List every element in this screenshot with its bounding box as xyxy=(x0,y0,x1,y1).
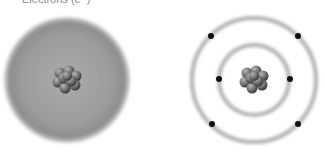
electron-dot xyxy=(208,33,214,39)
bohr-model xyxy=(192,18,316,142)
electron-dot xyxy=(209,121,215,127)
nucleus-icon xyxy=(240,66,269,94)
electron-dot xyxy=(287,76,293,82)
atom-models-diagram xyxy=(0,0,324,151)
electron-dot xyxy=(216,76,222,82)
electron-dot xyxy=(295,33,301,39)
electron-cloud-model xyxy=(3,16,131,144)
electron-dot xyxy=(295,121,301,127)
